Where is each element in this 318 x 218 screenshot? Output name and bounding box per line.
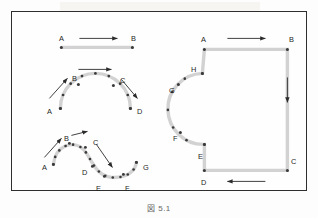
closed-path-vertex-dot-d xyxy=(203,169,206,172)
endpoint-dot-a xyxy=(60,46,63,49)
label-scurve-b: B xyxy=(64,135,69,142)
label-arc-d: D xyxy=(137,108,143,115)
vertex-dot-b xyxy=(77,83,80,86)
label-closed-f: F xyxy=(173,135,178,142)
label-arc-a: A xyxy=(47,108,52,115)
figure-frame: ABABCDABCDEFGABCDEFGH xyxy=(11,11,307,191)
s-curve-marker-dot xyxy=(126,173,129,176)
s-curve-marker-dot xyxy=(132,168,135,171)
closed-path-vertex-dot-a xyxy=(203,48,206,51)
s-curve-marker-dot xyxy=(72,143,75,146)
label-scurve-a: A xyxy=(42,164,47,171)
arc-marker-dot xyxy=(62,94,65,97)
s-curve-marker-dot xyxy=(89,158,92,161)
label-arc-b: B xyxy=(72,75,77,82)
s-curve-marker-dot xyxy=(54,156,57,159)
label-line-a: A xyxy=(59,35,64,42)
label-scurve-d: D xyxy=(82,169,88,176)
label-closed-e: E xyxy=(198,153,203,160)
s-curve-direction-arrow-3 xyxy=(96,144,112,167)
s-curve-direction-arrow-1 xyxy=(44,138,61,157)
label-line-b: B xyxy=(131,35,136,42)
s-curve-vertex-dot-f xyxy=(122,173,125,176)
s-curve-vertex-dot-a xyxy=(52,163,55,166)
s-curve-marker-dot xyxy=(98,170,101,173)
closed-path-vertex-dot-c xyxy=(286,169,289,172)
figure-canvas: ABABCDABCDEFGABCDEFGH xyxy=(12,12,306,190)
s-curve-marker-dot xyxy=(64,145,67,148)
closed-path-vertex-dot-f xyxy=(179,131,182,134)
label-closed-a: A xyxy=(201,36,206,43)
label-closed-d: D xyxy=(201,179,207,186)
s-curve-vertex-dot-g xyxy=(135,161,138,164)
label-arc-c: C xyxy=(120,77,126,84)
closed-path-vertex-dot-h xyxy=(201,72,204,75)
vertex-dot-d xyxy=(129,107,132,110)
geometry-diagram xyxy=(12,12,305,189)
s-curve-direction-arrow-2 xyxy=(71,131,87,135)
concave-arc-marker-dot xyxy=(183,77,186,80)
s-curve-marker-dot xyxy=(58,149,61,152)
label-closed-g: G xyxy=(169,87,175,94)
vertex-dot-a xyxy=(59,107,62,110)
vertex-dot-c xyxy=(112,84,115,87)
s-curve-vertex-dot-e xyxy=(103,175,106,178)
closed-path-outline xyxy=(168,49,288,170)
concave-arc-marker-dot xyxy=(185,139,188,142)
label-scurve-f: F xyxy=(125,185,130,192)
s-curve-marker-dot xyxy=(79,146,82,149)
endpoint-dot-b xyxy=(131,46,134,49)
label-scurve-c: C xyxy=(93,139,99,146)
label-closed-h: H xyxy=(191,66,197,73)
concave-arc-marker-dot xyxy=(172,126,175,129)
s-curve-marker-dot xyxy=(85,151,88,154)
label-scurve-e: E xyxy=(96,185,101,192)
arc-marker-dot xyxy=(81,75,84,78)
s-curve-vertex-dot-c xyxy=(84,146,87,149)
concave-arc-marker-dot xyxy=(167,109,170,112)
s-curve-vertex-dot-d xyxy=(91,165,94,168)
label-closed-c: C xyxy=(291,158,297,165)
label-closed-b: B xyxy=(289,36,294,43)
s-curve-path xyxy=(53,145,136,178)
s-curve-marker-dot xyxy=(119,176,122,179)
arc-marker-dot xyxy=(126,94,129,97)
figure-caption: 図 5.1 xyxy=(0,198,318,216)
s-curve-marker-dot xyxy=(111,176,114,179)
closed-path-vertex-dot-e xyxy=(203,143,206,146)
closed-path-vertex-dot-b xyxy=(286,48,289,51)
arc-marker-dot xyxy=(107,75,110,78)
closed-path-vertex-dot-g xyxy=(177,83,180,86)
arc-marker-dot xyxy=(94,72,97,75)
label-scurve-g: G xyxy=(143,164,149,171)
figure-page: ABABCDABCDEFGABCDEFGH 図 5.1 xyxy=(0,0,318,218)
